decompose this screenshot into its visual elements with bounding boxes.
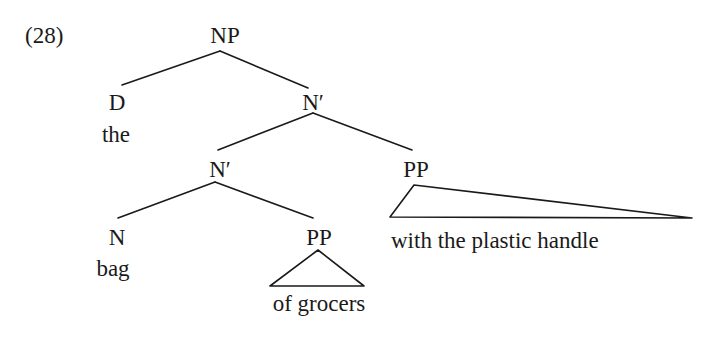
- node-pp-lower: PP: [306, 225, 332, 250]
- word-the: the: [102, 122, 130, 147]
- word-bag: bag: [96, 256, 130, 281]
- triangle-pp-right: [390, 185, 692, 218]
- edge-nbar-nbar: [218, 113, 313, 150]
- edge-np-nbar: [220, 51, 308, 88]
- node-d: D: [109, 90, 126, 115]
- node-nbar-top: N′: [302, 90, 324, 115]
- edge-np-d: [122, 51, 220, 85]
- edge-nbar-n: [118, 182, 215, 218]
- node-pp-right: PP: [403, 157, 429, 182]
- phrase-with-the-plastic-handle: with the plastic handle: [391, 228, 599, 253]
- edge-nbar-pp: [313, 113, 412, 150]
- phrase-of-grocers: of grocers: [273, 291, 366, 316]
- triangle-pp-lower: [270, 250, 364, 286]
- node-nbar-lower: N′: [209, 157, 231, 182]
- node-n: N: [109, 225, 126, 250]
- syntax-tree-diagram: (28) NP D the N′ N′ PP with the plastic …: [0, 0, 721, 339]
- edge-nbar-pp-lower: [215, 182, 313, 218]
- node-np: NP: [210, 23, 239, 48]
- example-number: (28): [25, 23, 63, 48]
